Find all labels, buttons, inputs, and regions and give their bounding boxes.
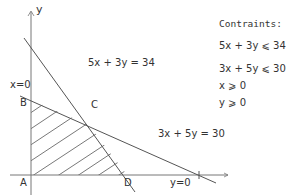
constraints-title: Contraints: [219,18,282,29]
point-c-label: C [91,99,98,110]
line2-equation-label: 3x + 5y = 30 [158,128,225,139]
y-axis-label: y [36,4,43,15]
line1-equation-label: 5x + 3y = 34 [88,57,155,68]
constraint-item: 3x + 5y ⩽ 30 [219,63,286,74]
constraint-item: y ⩾ 0 [219,97,246,108]
point-b-label: B [20,97,27,108]
line-3x-5y-30 [20,96,216,183]
diagram-canvas [0,0,294,195]
constraint-item: 5x + 3y ⩽ 34 [219,40,286,51]
point-d-label: D [124,177,132,188]
constraint-item: x ⩾ 0 [219,80,246,91]
y-zero-label: y=0 [170,177,191,188]
x-zero-label: x=0 [10,79,31,90]
feasible-region-hatching [20,93,190,194]
point-a-label: A [20,177,27,188]
